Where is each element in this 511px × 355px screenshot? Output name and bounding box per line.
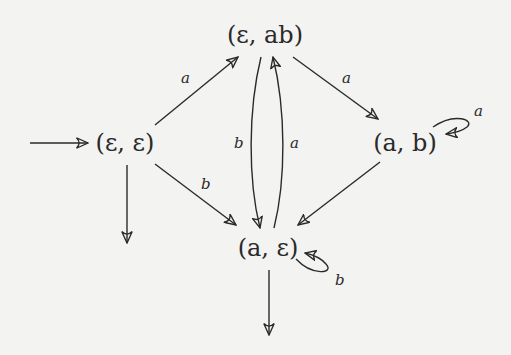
edge-eab-to-ae — [251, 57, 261, 228]
edge-ab-to-ae — [298, 162, 380, 225]
edge-ae-to-eab — [273, 57, 283, 228]
state-a-b: (a, b) — [373, 129, 437, 157]
state-eps-ab: (ε, ab) — [227, 21, 303, 49]
edge-label-ae-loop: b — [335, 271, 345, 289]
automaton-diagram: a a a b b a b (ε, ab) (ε, ε) (a, b) (a, … — [0, 0, 511, 355]
edge-label-ee-to-ae: b — [201, 175, 211, 193]
edge-label-ab-loop: a — [474, 102, 483, 120]
edge-label-eab-to-ab: a — [342, 69, 351, 87]
edge-label-eab-to-ae: b — [234, 134, 244, 152]
edge-label-ee-to-eab: a — [181, 69, 190, 87]
edge-eab-to-ab — [293, 57, 378, 119]
self-loop-ae — [296, 253, 328, 272]
edge-ee-to-ae — [155, 164, 236, 225]
edge-label-ae-to-eab: a — [290, 134, 299, 152]
self-loop-ab — [433, 118, 469, 134]
state-a-eps: (a, ε) — [238, 234, 299, 262]
edge-ee-to-eab — [155, 57, 238, 125]
state-eps-eps: (ε, ε) — [96, 129, 155, 157]
